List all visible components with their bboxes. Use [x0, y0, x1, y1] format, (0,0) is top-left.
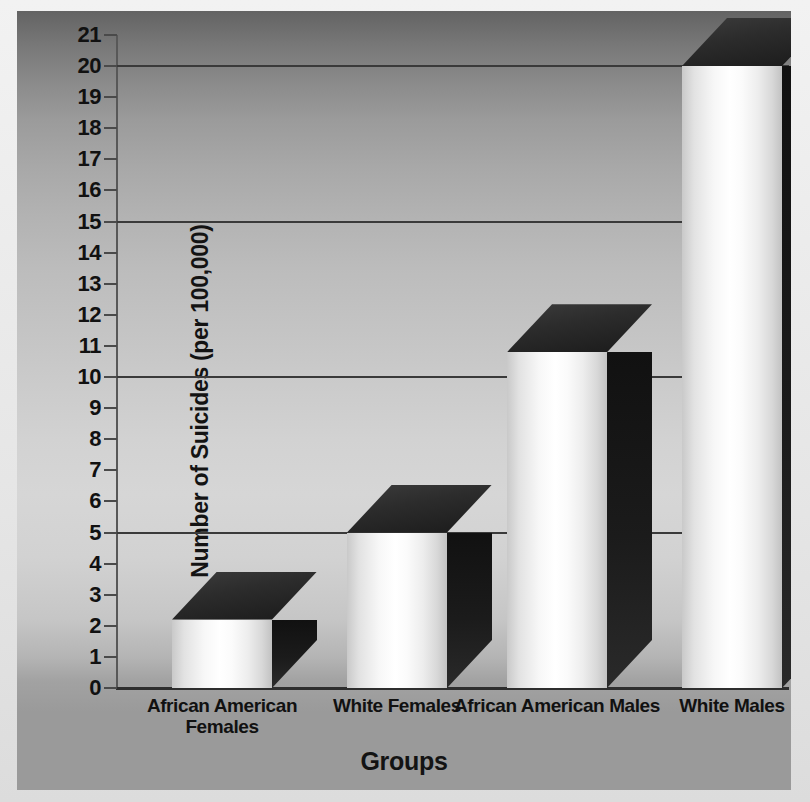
y-tick-label-11: 11 — [79, 335, 101, 357]
y-tick-label-1: 1 — [89, 646, 101, 668]
bar-3[interactable] — [507, 304, 652, 688]
y-tick-label-19: 19 — [78, 86, 101, 108]
y-tick-2 — [104, 625, 117, 627]
y-tick-15 — [104, 221, 117, 223]
y-tick-label-14: 14 — [78, 242, 101, 264]
bar-front-face — [347, 533, 447, 688]
y-tick-label-16: 16 — [78, 179, 101, 201]
y-tick-label-2: 2 — [89, 615, 101, 637]
bar-top-face — [682, 18, 791, 66]
y-tick-label-21: 21 — [78, 24, 101, 46]
y-tick-label-6: 6 — [89, 490, 101, 512]
y-tick-label-9: 9 — [89, 397, 101, 419]
bar-1[interactable] — [172, 572, 317, 688]
y-tick-label-8: 8 — [89, 428, 101, 450]
y-tick-label-13: 13 — [78, 273, 101, 295]
y-tick-label-15: 15 — [78, 211, 101, 233]
y-tick-label-4: 4 — [89, 553, 101, 575]
y-tick-13 — [104, 283, 117, 285]
y-tick-12 — [104, 314, 117, 316]
y-tick-18 — [104, 127, 117, 129]
bar-front-face — [172, 620, 272, 688]
y-tick-17 — [104, 158, 117, 160]
y-tick-label-20: 20 — [78, 55, 101, 77]
y-tick-7 — [104, 469, 117, 471]
bar-side-face — [447, 533, 492, 688]
y-tick-10 — [104, 376, 117, 378]
y-tick-label-10: 10 — [78, 366, 101, 388]
y-tick-19 — [104, 96, 117, 98]
y-tick-4 — [104, 563, 117, 565]
bar-top-face — [347, 485, 492, 533]
y-tick-0 — [104, 687, 117, 689]
y-tick-16 — [104, 189, 117, 191]
y-tick-label-7: 7 — [89, 459, 101, 481]
y-tick-8 — [104, 438, 117, 440]
bar-top-face — [507, 304, 652, 352]
plot-area: 0123456789101112131415161718192021 — [117, 35, 789, 688]
category-label-4: White Males — [622, 695, 791, 716]
bar-4[interactable] — [682, 18, 791, 688]
bar-front-face — [507, 352, 607, 688]
figure-canvas: Number of Suicides (per 100,000) 0123456… — [0, 0, 810, 802]
x-axis-title: Groups — [17, 747, 791, 776]
y-tick-20 — [104, 65, 117, 67]
y-tick-label-12: 12 — [78, 304, 101, 326]
y-tick-label-17: 17 — [78, 148, 101, 170]
y-axis-title-container: Number of Suicides (per 100,000) — [25, 11, 65, 790]
y-tick-11 — [104, 345, 117, 347]
bar-side-face — [607, 352, 652, 688]
bar-2[interactable] — [347, 485, 492, 688]
y-tick-label-18: 18 — [78, 117, 101, 139]
y-tick-label-3: 3 — [89, 584, 101, 606]
bar-front-face — [682, 66, 782, 688]
y-tick-label-0: 0 — [89, 677, 101, 699]
y-tick-14 — [104, 252, 117, 254]
bar-side-face — [272, 620, 317, 688]
y-tick-3 — [104, 594, 117, 596]
y-tick-5 — [104, 532, 117, 534]
y-tick-9 — [104, 407, 117, 409]
chart-panel: Number of Suicides (per 100,000) 0123456… — [17, 11, 791, 790]
bar-side-face — [782, 66, 791, 688]
y-tick-1 — [104, 656, 117, 658]
y-tick-6 — [104, 500, 117, 502]
y-tick-label-5: 5 — [89, 522, 101, 544]
bar-top-face — [172, 572, 317, 620]
y-tick-21 — [104, 34, 117, 36]
